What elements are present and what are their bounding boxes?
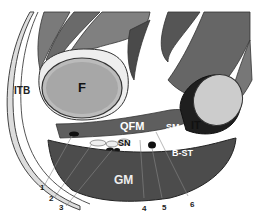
anatomy-diagram: ITB F QFM SN SM IT B-ST GM 1 2 3 4 5 6 [0,0,262,224]
muscle-left-dark [128,20,150,80]
number-2: 2 [49,194,54,203]
label-it: IT [191,119,201,131]
label-gm: GM [114,173,133,187]
number-3: 3 [59,203,64,212]
label-bst: B-ST [172,148,193,158]
label-f: F [78,80,86,95]
number-6: 6 [190,200,195,209]
label-sm: SM [166,122,180,132]
number-1: 1 [40,183,45,192]
label-qfm: QFM [120,120,144,132]
label-itb: ITB [14,85,30,96]
sciatic-nerve-part [106,141,118,147]
label-sn: SN [118,138,131,148]
vessel [148,142,156,149]
number-5: 5 [162,203,167,212]
number-4: 4 [142,204,147,213]
vessel [69,132,79,137]
sciatic-nerve-part [90,140,106,146]
